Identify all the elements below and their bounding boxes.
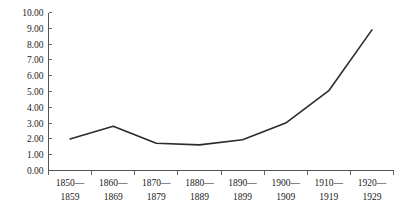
x-tick-label-start: 1870—: [142, 178, 171, 188]
x-axis-tick-marks: [49, 171, 394, 175]
y-tick-label: 10.00: [22, 8, 44, 18]
x-tick-label-start: 1920—: [358, 178, 387, 188]
chart-container: 0.001.002.003.004.005.006.007.008.009.00…: [0, 0, 405, 212]
x-tick-label-start: 1910—: [315, 178, 344, 188]
x-tick-label-end: 1899: [233, 192, 252, 202]
x-tick-label-end: 1929: [362, 192, 381, 202]
x-tick-label-end: 1909: [276, 192, 295, 202]
y-tick-label: 7.00: [27, 55, 44, 65]
x-tick-label-end: 1869: [104, 192, 123, 202]
x-tick-label-end: 1859: [61, 192, 80, 202]
x-tick-label-end: 1879: [147, 192, 166, 202]
data-series-line: [70, 30, 372, 145]
x-tick-label-start: 1860—: [99, 178, 128, 188]
y-tick-label: 2.00: [27, 134, 44, 144]
x-tick-label-start: 1900—: [271, 178, 300, 188]
y-tick-label: 3.00: [27, 119, 44, 129]
y-tick-label: 1.00: [27, 150, 44, 160]
y-tick-label: 6.00: [27, 71, 44, 81]
y-tick-label: 5.00: [27, 87, 44, 97]
line-chart: 0.001.002.003.004.005.006.007.008.009.00…: [0, 0, 405, 212]
y-tick-label: 0.00: [27, 166, 44, 176]
x-tick-label-start: 1850—: [56, 178, 85, 188]
y-tick-label: 8.00: [27, 40, 44, 50]
x-tick-label-end: 1919: [319, 192, 338, 202]
x-tick-label-start: 1880—: [185, 178, 214, 188]
x-axis-tick-labels: 1850—18591860—18691870—18791880—18891890…: [56, 178, 387, 202]
y-tick-label: 4.00: [27, 103, 44, 113]
x-tick-label-start: 1890—: [228, 178, 257, 188]
x-tick-label-end: 1889: [190, 192, 209, 202]
y-axis-tick-labels: 0.001.002.003.004.005.006.007.008.009.00…: [22, 8, 44, 176]
y-tick-label: 9.00: [27, 24, 44, 34]
